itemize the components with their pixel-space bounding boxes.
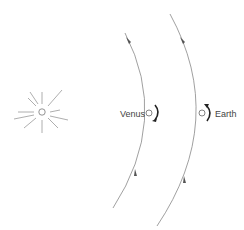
venus-planet [146, 110, 152, 116]
venus-label: Venus [120, 109, 145, 119]
earth-orbit-arrow-top [180, 37, 185, 44]
earth-orbit [157, 14, 196, 226]
venus-orbit [113, 33, 145, 208]
earth-orbit-arrow-bottom [183, 176, 186, 183]
earth-label: Earth [215, 109, 237, 119]
venus-rotation-arrowhead [152, 118, 157, 122]
sun-icon [14, 90, 68, 133]
orbit-diagram: Venus Earth [0, 0, 244, 230]
earth-rotation-arrow [207, 106, 210, 121]
venus-rotation-arrow [155, 105, 158, 120]
earth-planet [199, 110, 205, 116]
venus-orbit-arrow-bottom [134, 169, 137, 176]
